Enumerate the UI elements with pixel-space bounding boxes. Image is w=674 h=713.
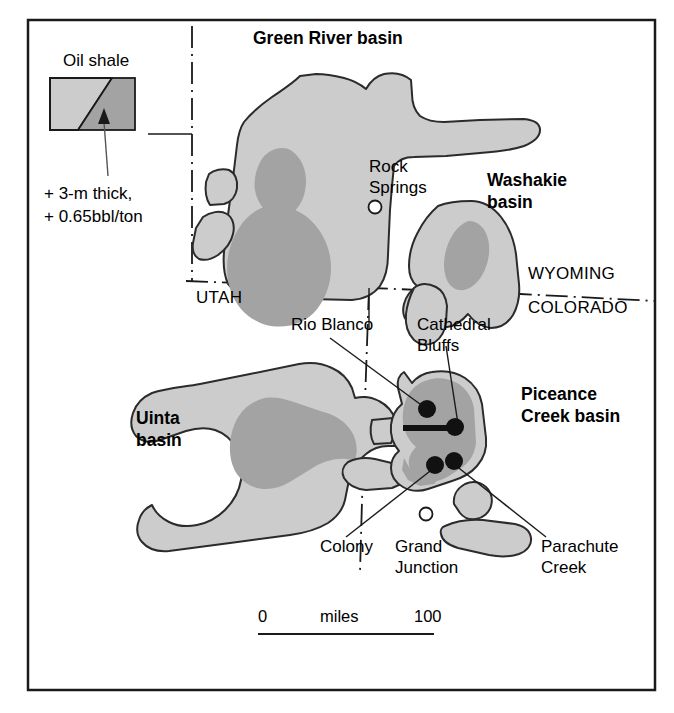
basin-label-uinta-line1: Uinta — [136, 408, 180, 428]
scale-bar-group: 0 miles 100 — [258, 607, 442, 634]
basin-label-green-river: Green River basin — [253, 28, 403, 48]
legend-note-line2: + 0.65bbl/ton — [44, 207, 143, 226]
state-label-colorado: COLORADO — [528, 298, 628, 317]
site-marker-parachute-creek[interactable] — [445, 452, 463, 470]
city-marker-rock-springs[interactable] — [369, 201, 382, 214]
legend: Oil shale + 3-m thick, + 0.65bbl/ton — [44, 51, 143, 226]
site-label-cathedral-bluffs-line2: Bluffs — [417, 336, 459, 355]
scale-unit-label: miles — [320, 607, 359, 625]
state-label-wyoming: WYOMING — [528, 264, 615, 283]
site-label-cathedral-bluffs-line1: Cathedral — [417, 315, 491, 334]
site-marker-colony[interactable] — [426, 456, 444, 474]
city-label-rock-springs-line1: Rock — [369, 157, 408, 176]
city-label-grand-junction-line2: Junction — [395, 558, 458, 577]
site-label-parachute-creek-line1: Parachute — [541, 537, 619, 556]
basin-label-washakie-line2: basin — [487, 192, 533, 212]
site-connector-bar — [403, 425, 455, 431]
city-label-grand-junction-line1: Grand — [395, 537, 442, 556]
shale-outlier-south-b — [441, 520, 531, 557]
shale-outlier-south-a — [454, 482, 492, 519]
legend-title: Oil shale — [63, 51, 129, 70]
basin-label-piceance-line1: Piceance — [521, 384, 597, 404]
city-marker-grand-junction[interactable] — [420, 508, 433, 521]
state-label-utah: UTAH — [196, 288, 242, 307]
scale-max-label: 100 — [414, 607, 442, 625]
shale-outlier-west-upper — [206, 169, 238, 205]
basin-label-piceance-line2: Creek basin — [521, 406, 620, 426]
site-marker-rio-blanco[interactable] — [418, 400, 436, 418]
oil-shale-basin-map: Green River basin Washakie basin Piceanc… — [0, 0, 674, 713]
basin-label-uinta-line2: basin — [136, 430, 182, 450]
basin-label-washakie-line1: Washakie — [487, 170, 567, 190]
city-label-rock-springs-line2: Springs — [369, 178, 427, 197]
legend-note-line1: + 3-m thick, — [44, 184, 132, 203]
site-label-rio-blanco: Rio Blanco — [291, 315, 373, 334]
scale-min-label: 0 — [258, 607, 267, 625]
site-label-parachute-creek-line2: Creek — [541, 558, 587, 577]
site-label-colony: Colony — [320, 537, 373, 556]
